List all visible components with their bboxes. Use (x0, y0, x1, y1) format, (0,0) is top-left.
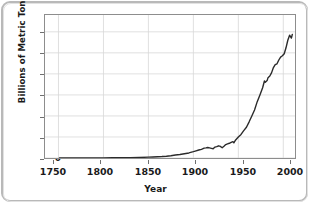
x-tickmark-1950 (243, 160, 244, 164)
x-tickmark-1750 (53, 160, 54, 164)
x-tickmark-1900 (195, 160, 196, 164)
x-tick-label-1900: 1900 (170, 167, 220, 177)
y-tickmark-0 (40, 159, 44, 160)
gridlines (45, 15, 295, 158)
x-tick-label-1750: 1750 (28, 167, 78, 177)
x-tick-label-1800: 1800 (75, 167, 125, 177)
plot-svg (45, 15, 295, 158)
x-tick-label-2000: 2000 (265, 167, 311, 177)
x-tickmark-1800 (100, 160, 101, 164)
plot-area (44, 14, 296, 159)
x-tick-label-1950: 1950 (218, 167, 268, 177)
x-tickmark-1850 (148, 160, 149, 164)
x-tickmark-2000 (290, 160, 291, 164)
chart-figure: Billions of Metric Tons CO₂ Year 30 25 2… (0, 0, 311, 205)
x-tick-label-1850: 1850 (123, 167, 173, 177)
x-axis-label: Year (0, 184, 311, 194)
